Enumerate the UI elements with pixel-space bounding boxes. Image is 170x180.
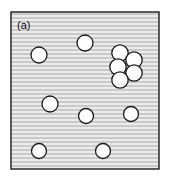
particle-dispersed <box>124 107 139 122</box>
particle-dispersed <box>42 96 58 112</box>
panel-label: (a) <box>17 19 30 31</box>
particle-clustered <box>112 72 128 88</box>
figure-panel: (a) <box>0 0 170 180</box>
figure-canvas: (a) <box>0 0 170 180</box>
particle-dispersed <box>31 47 47 63</box>
particle-dispersed <box>96 144 111 159</box>
particle-dispersed <box>79 109 94 124</box>
particle-dispersed <box>77 35 93 51</box>
particle-dispersed <box>32 144 47 159</box>
